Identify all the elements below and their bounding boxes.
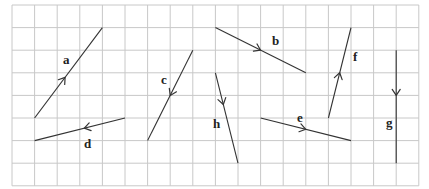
vector-label: a [63, 52, 70, 67]
square-grid [12, 5, 419, 186]
vector-label: c [161, 72, 167, 87]
vector-label: e [297, 110, 303, 125]
vector-label: d [84, 136, 92, 151]
vector-diagram: abcdefgh [0, 0, 429, 189]
vector-label: b [272, 33, 279, 48]
vector-label: h [213, 116, 221, 131]
vector-g: g [386, 50, 400, 163]
vector-label: f [353, 49, 358, 64]
vector-label: g [386, 115, 393, 130]
